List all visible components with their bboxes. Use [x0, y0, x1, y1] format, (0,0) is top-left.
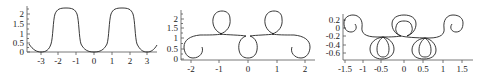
x-tick-label: -3 [37, 56, 45, 66]
x-tick-label: 1 [110, 56, 115, 66]
y-tick-label: 0.5 [167, 44, 179, 54]
y-tick-label: 1.5 [13, 19, 25, 29]
x-tick-label: -1 [72, 56, 80, 66]
x-tick-label: 2 [303, 64, 308, 74]
y-tick-labels: 0 0.5 1 1.5 2 [167, 14, 179, 64]
data-curve [184, 11, 310, 58]
chart-3-svg: 0.2 0 -0.2 -0.4 -0.6 -1.5 -1 -0.5 0 0.5 … [325, 0, 485, 74]
y-tick-labels: 0 0.5 1 1.5 2 [13, 9, 25, 57]
y-ticks [181, 14, 184, 59]
y-tick-label: 2 [20, 9, 25, 19]
x-tick-label: -1 [215, 64, 223, 74]
x-tick-labels: -3 -2 -1 0 1 2 3 [37, 56, 150, 66]
chart-panel-1: 0 0.5 1 1.5 2 -3 -2 -1 0 1 2 3 [0, 0, 160, 74]
x-ticks [345, 60, 462, 63]
y-tick-label: 1.5 [167, 23, 179, 33]
x-tick-label: 0 [246, 64, 251, 74]
y-tick-label: 2 [174, 14, 179, 24]
data-curve [344, 15, 463, 38]
x-tick-label: -2 [187, 64, 195, 74]
x-ticks [191, 60, 305, 63]
x-tick-label: 0 [92, 56, 97, 66]
x-tick-label: 0.5 [417, 64, 429, 74]
x-tick-label: -1.5 [338, 64, 353, 74]
x-tick-label: 0 [402, 64, 407, 74]
chart-panel-3: 0.2 0 -0.2 -0.4 -0.6 -1.5 -1 -0.5 0 0.5 … [325, 0, 485, 74]
x-tick-label: 1 [441, 64, 446, 74]
y-tick-label: 0 [20, 47, 25, 57]
y-tick-labels: 0.2 0 -0.2 -0.4 -0.6 [326, 15, 341, 58]
chart-1-svg: 0 0.5 1 1.5 2 -3 -2 -1 0 1 2 3 [0, 0, 160, 74]
x-tick-labels: -2 -1 0 1 2 [187, 64, 307, 74]
x-tick-label: 3 [145, 56, 150, 66]
y-tick-label: 1 [174, 33, 179, 43]
x-tick-label: -2 [54, 56, 62, 66]
y-tick-label: 1 [20, 29, 25, 39]
y-tick-label: 0.5 [13, 38, 25, 48]
y-tick-label: -0.6 [326, 48, 341, 58]
data-curve [29, 8, 157, 52]
chart-2-svg: 0 0.5 1 1.5 2 -2 -1 0 1 2 [160, 0, 325, 74]
x-tick-labels: -1.5 -1 -0.5 0 0.5 1 1.5 [338, 64, 468, 74]
x-tick-label: 1.5 [456, 64, 468, 74]
x-tick-label: 2 [128, 56, 133, 66]
x-tick-label: -1 [359, 64, 367, 74]
data-curve-lower-loops [370, 37, 436, 59]
x-tick-label: 1 [275, 64, 280, 74]
x-tick-label: -0.5 [374, 64, 389, 74]
chart-panel-2: 0 0.5 1 1.5 2 -2 -1 0 1 2 [160, 0, 325, 74]
y-tick-label: 0 [174, 54, 179, 64]
